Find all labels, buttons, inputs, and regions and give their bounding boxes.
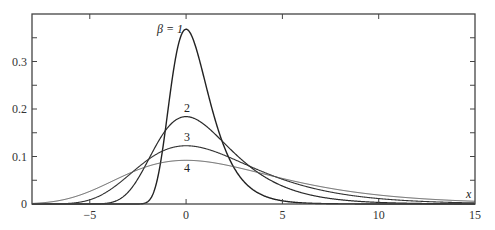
curve-label-3: 3 xyxy=(184,130,190,144)
y-tick-label: 0.2 xyxy=(12,102,27,116)
curve-label-1: β = 1 xyxy=(156,22,183,36)
x-tick-label: 15 xyxy=(469,208,481,222)
x-tick-label: 5 xyxy=(279,208,285,222)
x-axis-label: x xyxy=(465,187,472,201)
chart: β = 1234−505101500.10.20.3 x xyxy=(0,0,495,230)
x-tick-label: 10 xyxy=(373,208,385,222)
curve-beta-3 xyxy=(32,146,475,204)
curves xyxy=(32,29,475,204)
x-tick-label: 0 xyxy=(183,208,189,222)
axis-labels: β = 1234−505101500.10.20.3 xyxy=(12,22,481,222)
axis-ticks xyxy=(32,14,475,204)
x-tick-label: −5 xyxy=(83,208,96,222)
curve-beta-1 xyxy=(32,29,475,204)
y-tick-label: 0 xyxy=(21,197,27,211)
y-tick-label: 0.1 xyxy=(12,150,27,164)
y-tick-label: 0.3 xyxy=(12,55,27,69)
plot-frame xyxy=(32,14,475,204)
curve-label-2: 2 xyxy=(184,101,190,115)
curve-label-4: 4 xyxy=(184,161,190,175)
